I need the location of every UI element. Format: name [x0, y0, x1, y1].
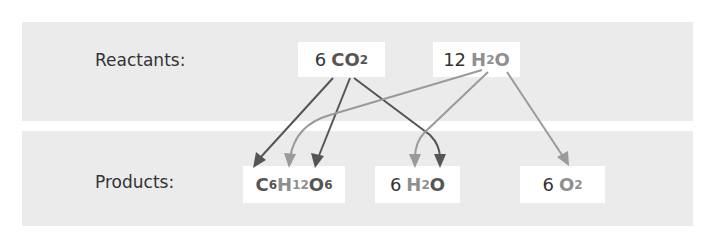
atom-carbon: C [331, 49, 344, 70]
molecule-glucose: C6 H12 O6 [243, 166, 345, 203]
atom-oxygen: O [345, 49, 360, 70]
products-label: Products: [95, 172, 174, 192]
coefficient: 6 [315, 49, 326, 70]
atom-hydrogen: H [277, 174, 292, 195]
molecule-water-product: 6 H2 O [375, 166, 460, 203]
atom-hydrogen: H [471, 49, 486, 70]
molecule-oxygen: 6 O2 [520, 166, 605, 203]
reactants-label: Reactants: [95, 50, 185, 70]
molecule-carbon-dioxide: 6 C O2 [298, 42, 385, 77]
coefficient: 12 [443, 49, 466, 70]
atom-carbon: C [255, 174, 268, 195]
atom-oxygen: O [559, 174, 574, 195]
coefficient: 6 [390, 174, 401, 195]
atom-oxygen: O [309, 174, 324, 195]
coefficient: 6 [542, 174, 553, 195]
atom-oxygen: O [430, 174, 445, 195]
atom-hydrogen: H [406, 174, 421, 195]
molecule-water-reactant: 12 H2 O [433, 42, 520, 77]
atom-oxygen: O [495, 49, 510, 70]
